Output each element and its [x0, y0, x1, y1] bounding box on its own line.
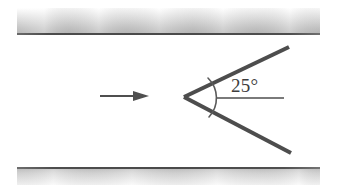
upper-wall-texture: [17, 8, 320, 33]
angle-value-label: 25°: [231, 76, 258, 95]
lower-wall-texture: [17, 169, 320, 185]
flow-arrow-shaft: [100, 95, 135, 97]
lower-wall: [17, 167, 320, 185]
angle-reference-line: [216, 97, 284, 99]
lower-wall-edge-line: [17, 167, 320, 169]
upper-wall: [17, 8, 320, 35]
upper-wall-edge-line: [17, 33, 320, 35]
wedge-angle-figure: 25°: [0, 0, 337, 185]
figure-canvas: [0, 0, 337, 185]
